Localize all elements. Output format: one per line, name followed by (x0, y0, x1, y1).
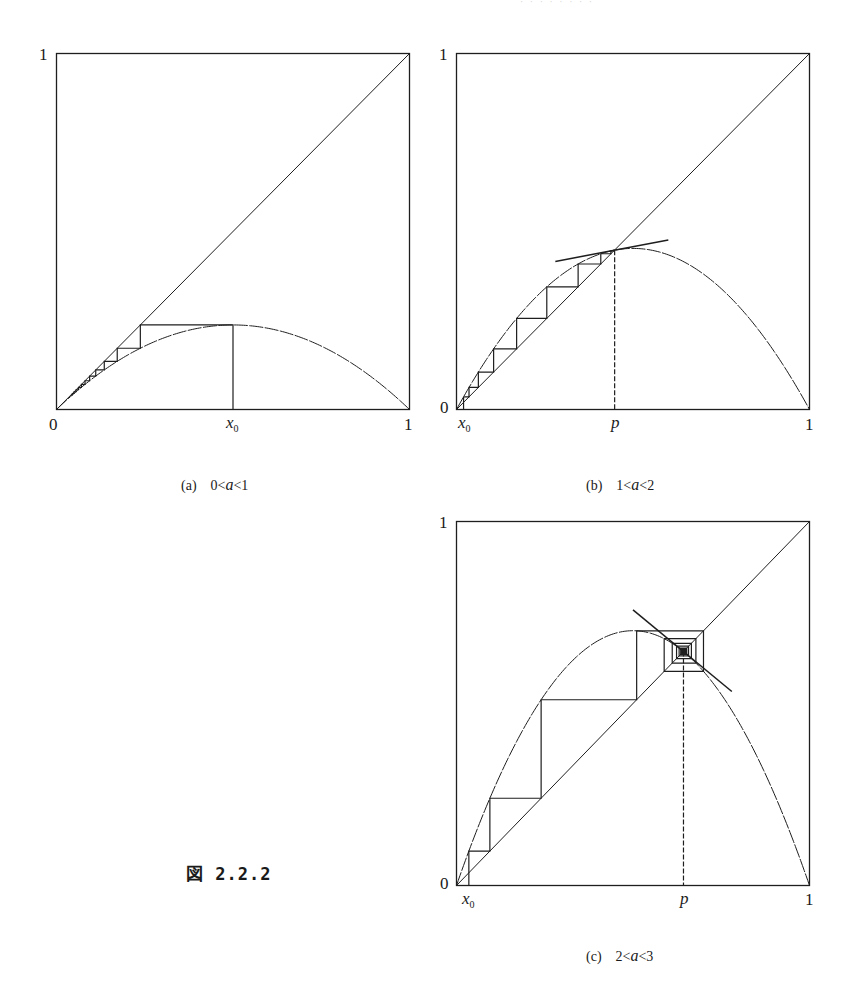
diagonal-line (457, 522, 810, 886)
caption-label-b: (b) (586, 478, 602, 493)
caption-a: (a)0<a<1 (174, 460, 248, 494)
running-head: · · · · · · · · (520, 0, 760, 6)
caption-b: (b)1<a<2 (579, 460, 654, 494)
x-tick-1-a: 1 (404, 416, 413, 433)
y-tick-1-a: 1 (39, 46, 48, 63)
tangent-line (555, 240, 668, 261)
x-tick-1-c: 1 (805, 891, 814, 908)
y-tick-0-b: 0 (440, 399, 449, 416)
caption-condition-a: 0<a<1 (211, 478, 249, 493)
y-tick-0-c: 0 (440, 875, 449, 892)
x-tick-p-c: p (680, 890, 689, 907)
cobweb-plot-b (456, 53, 810, 410)
cobweb-orbit (464, 250, 615, 409)
caption-condition-b: 1<a<2 (616, 478, 654, 493)
figure-label: 図 2.2.2 (186, 860, 271, 885)
cobweb-plot-c (456, 521, 810, 886)
cobweb-orbit (71, 325, 233, 410)
caption-condition-c: 2<a<3 (616, 949, 654, 964)
caption-label-c: (c) (586, 949, 602, 964)
x-tick-1-b: 1 (805, 416, 814, 433)
tangent-line (633, 610, 732, 692)
y-tick-1-c: 1 (439, 514, 448, 531)
caption-c: (c)2<a<3 (579, 931, 653, 965)
y-tick-1-b: 1 (439, 46, 448, 63)
x-tick-x0-c: x0 (462, 890, 475, 913)
caption-label-a: (a) (181, 478, 197, 493)
cobweb-plot-a (56, 53, 410, 410)
x-tick-0-a: 0 (49, 416, 58, 433)
parabola-curve (457, 631, 810, 886)
diagonal-line (457, 54, 810, 410)
cobweb-orbit (469, 631, 704, 886)
x-tick-p-b: p (611, 414, 620, 431)
x-tick-x0-a: x0 (226, 414, 239, 437)
x-tick-x0-b: x0 (458, 414, 471, 437)
parabola-curve (457, 248, 810, 409)
